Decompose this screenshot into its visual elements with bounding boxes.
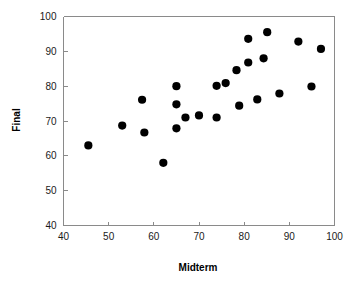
data-point: [213, 82, 221, 90]
data-point: [172, 124, 180, 132]
data-point: [84, 141, 92, 149]
data-point: [275, 89, 283, 97]
y-tick-label: 100: [40, 11, 57, 22]
data-point: [232, 66, 240, 74]
plot-canvas: 405060708090100 405060708090100 Midterm …: [0, 0, 361, 282]
data-point: [172, 100, 180, 108]
y-tick-label: 40: [45, 220, 57, 231]
data-point: [253, 95, 261, 103]
data-point: [138, 96, 146, 104]
y-tick-label: 60: [45, 150, 57, 161]
plot-frame: [64, 17, 335, 226]
y-tick-label: 70: [45, 116, 57, 127]
data-point: [244, 58, 252, 66]
x-tick-label: 70: [193, 231, 205, 242]
x-tick-label: 80: [239, 231, 251, 242]
data-point: [263, 28, 271, 36]
data-point: [140, 128, 148, 136]
data-point: [259, 54, 267, 62]
data-point: [222, 79, 230, 87]
y-axis-ticks: [64, 51, 68, 225]
y-tick-label: 90: [45, 46, 57, 57]
data-point: [118, 121, 126, 129]
data-point: [213, 113, 221, 121]
data-point: [307, 82, 315, 90]
data-point: [172, 82, 180, 90]
x-tick-label: 90: [284, 231, 296, 242]
x-axis-title: Midterm: [179, 262, 218, 273]
data-point: [244, 35, 252, 43]
x-axis-ticks: [64, 222, 335, 226]
y-axis-title: Final: [11, 108, 22, 132]
data-point: [294, 37, 302, 45]
data-point: [181, 113, 189, 121]
data-point: [317, 45, 325, 53]
y-axis-tick-labels: 405060708090100: [40, 11, 57, 231]
x-tick-label: 60: [148, 231, 160, 242]
y-tick-label: 80: [45, 81, 57, 92]
x-tick-label: 100: [326, 231, 343, 242]
data-points: [84, 28, 325, 167]
x-tick-label: 50: [103, 231, 115, 242]
scatter-chart: 405060708090100 405060708090100 Midterm …: [0, 0, 361, 282]
data-point: [235, 102, 243, 110]
data-point: [195, 111, 203, 119]
x-tick-label: 40: [58, 231, 70, 242]
data-point: [159, 159, 167, 167]
x-axis-tick-labels: 405060708090100: [58, 231, 343, 242]
y-tick-label: 50: [45, 185, 57, 196]
